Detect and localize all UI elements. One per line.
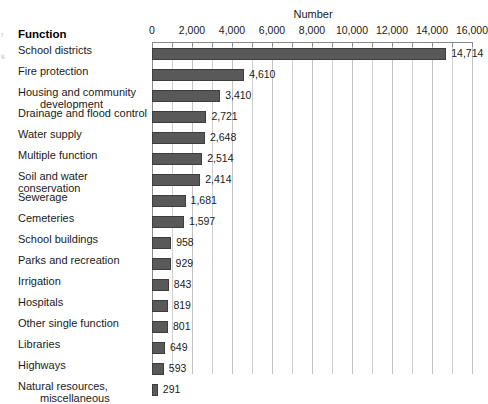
bar-value-label: 649	[170, 341, 188, 354]
bar-value-label: 291	[163, 383, 181, 396]
bar-value-label: 801	[173, 320, 191, 333]
x-tick-label: 2,000	[179, 24, 205, 36]
category-label: Parks and recreation	[18, 254, 148, 266]
chart-row: Cemeteries1,597	[0, 212, 474, 233]
chart-row: Fire protection4,610	[0, 65, 474, 86]
chart-row: Other single function801	[0, 317, 474, 338]
category-label: Hospitals	[18, 296, 148, 308]
bar	[152, 90, 220, 102]
bar-value-label: 2,414	[205, 173, 231, 186]
bar	[152, 321, 168, 333]
chart-row: Hospitals819	[0, 296, 474, 317]
bar-value-label: 3,410	[225, 89, 251, 102]
bar-value-label: 958	[176, 236, 194, 249]
bar	[152, 153, 202, 165]
chart-row: Drainage and flood control2,721	[0, 107, 474, 128]
chart-row: Highways593	[0, 359, 474, 380]
bar-value-label: 593	[169, 362, 187, 375]
category-label: Other single function	[18, 317, 148, 329]
category-label: School districts	[18, 44, 148, 56]
category-label: Water supply	[18, 128, 148, 140]
chart-row: Soil and water conservation2,414	[0, 170, 474, 191]
chart-row: Sewerage1,681	[0, 191, 474, 212]
x-tick-label: 0	[149, 24, 155, 36]
x-tick-label: 12,000	[376, 24, 408, 36]
category-label: Natural resources,miscellaneous	[18, 380, 148, 404]
bar	[152, 111, 206, 123]
category-label: Fire protection	[18, 65, 148, 77]
category-label: Libraries	[18, 338, 148, 350]
bar	[152, 237, 171, 249]
x-tick-label: 4,000	[219, 24, 245, 36]
category-label: Drainage and flood control	[18, 107, 148, 119]
bar	[152, 342, 165, 354]
chart-row: School districts14,714	[0, 44, 474, 65]
bar	[152, 69, 244, 81]
category-label: Sewerage	[18, 191, 148, 203]
x-tick-label: 14,000	[416, 24, 448, 36]
bar-value-label: 1,597	[189, 215, 215, 228]
bar-value-label: 14,714	[451, 47, 483, 60]
bar	[152, 258, 171, 270]
bar-value-label: 929	[176, 257, 194, 270]
chart-row: Natural resources,miscellaneous291	[0, 380, 474, 401]
category-label: School buildings	[18, 233, 148, 245]
bar-value-label: 1,681	[191, 194, 217, 207]
bar-value-label: 2,721	[211, 110, 237, 123]
bar	[152, 48, 446, 60]
x-tick-label: 10,000	[336, 24, 368, 36]
x-axis-title: Number	[152, 8, 474, 20]
bar	[152, 195, 186, 207]
chart-row: Parks and recreation929	[0, 254, 474, 275]
category-label: Highways	[18, 359, 148, 371]
category-label: Multiple function	[18, 149, 148, 161]
category-label: Cemeteries	[18, 212, 148, 224]
bar	[152, 216, 184, 228]
bar	[152, 174, 200, 186]
chart-row: Housing and communitydevelopment3,410	[0, 86, 474, 107]
bar	[152, 363, 164, 375]
bar-value-label: 819	[173, 299, 191, 312]
bar	[152, 300, 168, 312]
bar-value-label: 843	[174, 278, 192, 291]
bar	[152, 132, 205, 144]
bar	[152, 384, 158, 396]
chart-row: Multiple function2,514	[0, 149, 474, 170]
chart-row: Libraries649	[0, 338, 474, 359]
chart-row: Water supply2,648	[0, 128, 474, 149]
category-label: Irrigation	[18, 275, 148, 287]
chart-row: School buildings958	[0, 233, 474, 254]
x-tick-label: 8,000	[299, 24, 325, 36]
x-tick-label: 6,000	[259, 24, 285, 36]
bar-value-label: 4,610	[249, 68, 275, 81]
chart-row: Irrigation843	[0, 275, 474, 296]
bar-value-label: 2,648	[210, 131, 236, 144]
category-label-line2: miscellaneous	[18, 392, 148, 404]
x-tick-label: 16,000	[456, 24, 488, 36]
bar	[152, 279, 169, 291]
x-axis-tick-labels: 02,0004,0006,0008,00010,00012,00014,0001…	[0, 24, 474, 40]
bar-value-label: 2,514	[207, 152, 233, 165]
